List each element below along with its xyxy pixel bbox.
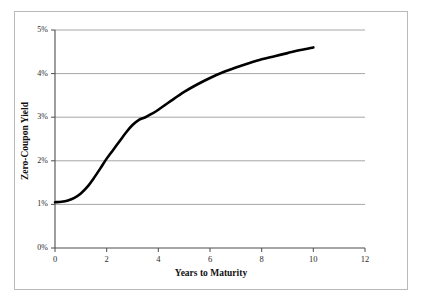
xtick-label-10: 10 <box>301 254 325 264</box>
x-axis-ticks <box>55 248 365 252</box>
ytick-label-5pct: 5% <box>22 25 48 34</box>
ytick-label-1pct: 1% <box>22 199 48 208</box>
y-axis-ticks <box>51 30 55 248</box>
xtick-label-12: 12 <box>353 254 377 264</box>
y-axis-title-holder: Zero-Coupon Yield <box>18 88 32 198</box>
xtick-label-6: 6 <box>198 254 222 264</box>
ytick-label-0pct: 0% <box>22 243 48 252</box>
xtick-label-2: 2 <box>95 254 119 264</box>
x-axis-title: Years to Maturity <box>0 268 422 278</box>
xtick-label-8: 8 <box>250 254 274 264</box>
plot-background <box>55 30 365 248</box>
ytick-label-4pct: 4% <box>22 69 48 78</box>
plot-area: 5% 4% 3% 2% 1% 0% 0 2 4 6 8 10 12 Years … <box>0 0 422 300</box>
y-axis-title: Zero-Coupon Yield <box>20 86 30 196</box>
xtick-label-4: 4 <box>146 254 170 264</box>
chart-figure: 5% 4% 3% 2% 1% 0% 0 2 4 6 8 10 12 Years … <box>0 0 422 300</box>
xtick-label-0: 0 <box>43 254 67 264</box>
